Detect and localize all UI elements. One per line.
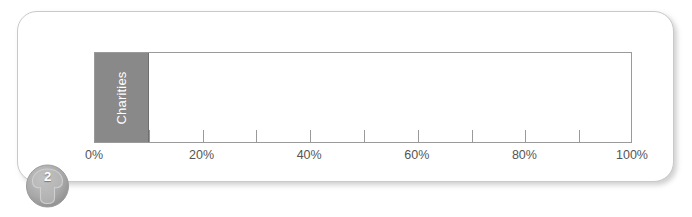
tick-mark bbox=[579, 130, 580, 142]
x-axis-tick-labels: 0%20%40%60%80%100% bbox=[18, 148, 675, 168]
mushroom-arrow-icon bbox=[25, 160, 70, 212]
tick-mark bbox=[310, 130, 311, 142]
tick-mark bbox=[364, 130, 365, 142]
bar-charities: Charities bbox=[95, 53, 149, 142]
tick-mark bbox=[256, 130, 257, 142]
bar-charities-label: Charities bbox=[114, 71, 129, 124]
x-axis-label: 40% bbox=[297, 148, 322, 162]
tick-mark bbox=[472, 130, 473, 142]
tick-mark bbox=[203, 130, 204, 142]
chart-plot-area: Charities bbox=[94, 52, 632, 143]
x-axis-label: 80% bbox=[512, 148, 537, 162]
x-axis-label: 60% bbox=[404, 148, 429, 162]
x-axis-label: 20% bbox=[189, 148, 214, 162]
x-axis-label: 100% bbox=[616, 148, 648, 162]
figure-number-badge: 2 bbox=[25, 160, 70, 212]
tick-mark bbox=[525, 130, 526, 142]
tick-mark bbox=[418, 130, 419, 142]
x-axis-label: 0% bbox=[85, 148, 103, 162]
figure-panel: Charities 0%20%40%60%80%100% bbox=[17, 11, 674, 182]
tick-mark bbox=[149, 130, 150, 142]
